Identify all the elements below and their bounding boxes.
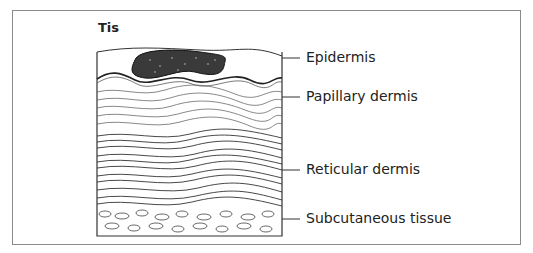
label-reticular-dermis: Reticular dermis	[306, 161, 420, 177]
skin-layers-diagram	[0, 0, 533, 253]
label-papillary-dermis: Papillary dermis	[306, 88, 418, 104]
label-epidermis: Epidermis	[306, 49, 375, 65]
label-subcutaneous-tissue: Subcutaneous tissue	[306, 210, 451, 226]
